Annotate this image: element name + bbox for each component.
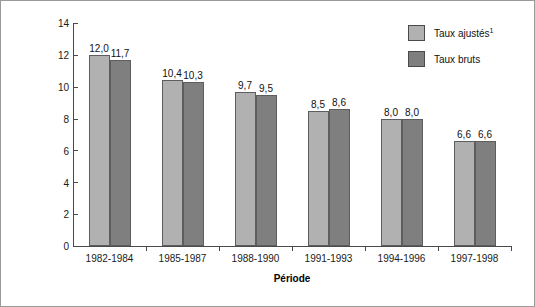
x-axis-tick-label: 1997-1998	[451, 253, 499, 264]
bar-adjusted: 8,0	[381, 119, 402, 246]
bar-crude: 9,5	[256, 95, 277, 246]
bar-value-label: 11,7	[111, 48, 130, 59]
bar-value-label: 8,5	[311, 99, 325, 110]
bar-adjusted: 6,6	[454, 141, 475, 246]
legend-item-crude: Taux bruts	[408, 51, 494, 67]
y-axis-tick-label: 6	[63, 146, 73, 157]
y-axis-tick-label: 10	[58, 82, 73, 93]
legend-label-adjusted: Taux ajustés1	[434, 27, 494, 39]
bar-value-label: 10,3	[183, 70, 202, 81]
bar-group: 9,79,5	[235, 23, 277, 246]
y-axis-tick-mark	[73, 23, 78, 24]
y-axis-tick-mark	[73, 182, 78, 183]
bar-group: 10,410,3	[162, 23, 204, 246]
bar-adjusted: 9,7	[235, 92, 256, 247]
y-axis-tick-label: 8	[63, 114, 73, 125]
legend-label-crude: Taux bruts	[434, 54, 480, 65]
bar-group: 8,58,6	[308, 23, 350, 246]
bar-value-label: 6,6	[457, 129, 471, 140]
y-axis-tick: 12	[58, 46, 73, 64]
x-axis-tick-label: 1988-1990	[232, 253, 280, 264]
y-axis-tick: 6	[63, 141, 73, 159]
y-axis-tick-mark	[73, 119, 78, 120]
y-axis-tick-label: 4	[63, 178, 73, 189]
x-axis-tick-mark	[438, 246, 439, 251]
bar-value-label: 8,6	[332, 97, 346, 108]
x-axis-tick-mark	[365, 246, 366, 251]
y-axis-tick: 8	[63, 110, 73, 128]
y-axis-tick: 10	[58, 78, 73, 96]
x-axis-tick-label: 1982-1984	[86, 253, 134, 264]
y-axis-tick-label: 12	[58, 50, 73, 61]
y-axis-tick-label: 14	[58, 18, 73, 29]
legend-label-superscript: 1	[490, 27, 494, 34]
chart-figure: Taux annuel moyen par 100 000 personnes …	[0, 0, 535, 307]
bar-value-label: 9,7	[238, 80, 252, 91]
legend-swatch-crude	[408, 51, 425, 67]
bar-value-label: 6,6	[478, 129, 492, 140]
bar-value-label: 9,5	[259, 83, 273, 94]
x-axis-tick-label: 1991-1993	[305, 253, 353, 264]
x-axis-tick-label: 1985-1987	[159, 253, 207, 264]
x-axis-title: Période	[73, 273, 511, 284]
y-axis-tick-mark	[73, 150, 78, 151]
legend-swatch-adjusted	[408, 25, 425, 41]
bar-adjusted: 8,5	[308, 111, 329, 246]
bar-crude: 10,3	[183, 82, 204, 246]
x-axis-tick-label: 1994-1996	[378, 253, 426, 264]
y-axis-title: Taux annuel moyen par 100 000 personnes	[15, 0, 49, 57]
bar-crude: 8,6	[329, 109, 350, 246]
y-axis-tick: 2	[63, 205, 73, 223]
bar-value-label: 8,0	[384, 107, 398, 118]
y-axis-tick: 4	[63, 173, 73, 191]
y-axis-tick-label: 0	[63, 241, 73, 252]
bar-group: 12,011,7	[89, 23, 131, 246]
y-axis-tick-mark	[73, 246, 78, 247]
y-axis-tick-mark	[73, 87, 78, 88]
bar-adjusted: 12,0	[89, 55, 110, 246]
x-axis-tick-mark	[511, 246, 512, 251]
y-axis-tick-mark	[73, 214, 78, 215]
y-axis-tick-mark	[73, 55, 78, 56]
bar-crude: 6,6	[475, 141, 496, 246]
x-axis-tick-mark	[292, 246, 293, 251]
bar-crude: 11,7	[110, 60, 131, 246]
y-axis-tick: 14	[58, 14, 73, 32]
y-axis-tick: 0	[63, 237, 73, 255]
x-axis-tick-mark	[219, 246, 220, 251]
chart-legend: Taux ajustés1 Taux bruts	[408, 25, 494, 77]
bar-adjusted: 10,4	[162, 80, 183, 246]
y-axis-tick-label: 2	[63, 209, 73, 220]
bar-value-label: 12,0	[89, 43, 108, 54]
bar-value-label: 8,0	[405, 107, 419, 118]
legend-item-adjusted: Taux ajustés1	[408, 25, 494, 41]
bar-crude: 8,0	[402, 119, 423, 246]
x-axis-tick-mark	[146, 246, 147, 251]
bar-value-label: 10,4	[162, 68, 181, 79]
